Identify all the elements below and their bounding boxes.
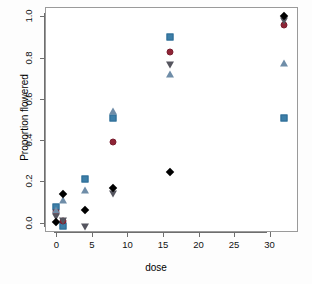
data-point-triangle-down — [59, 217, 67, 224]
data-point-triangle-down — [166, 61, 174, 68]
y-tick-mark — [40, 16, 45, 17]
x-tick-label: 5 — [89, 240, 94, 250]
data-point-circle — [167, 48, 174, 55]
y-tick-label: 1.0 — [24, 7, 34, 25]
y-tick-mark — [40, 99, 45, 100]
x-tick-mark — [163, 232, 164, 237]
y-tick-mark — [40, 140, 45, 141]
data-point-square — [167, 33, 174, 40]
x-tick-mark — [234, 232, 235, 237]
data-point-square — [280, 115, 287, 122]
y-tick-label: 0.0 — [24, 214, 34, 232]
data-point-triangle-down — [81, 223, 89, 230]
x-tick-label: 10 — [122, 240, 133, 250]
y-axis-title: Proportion flowered — [19, 48, 30, 188]
data-point-triangle-up — [109, 108, 117, 115]
x-tick-mark — [127, 232, 128, 237]
data-point-square — [81, 176, 88, 183]
plot-area-frame — [45, 7, 298, 232]
x-tick-label: 20 — [193, 240, 204, 250]
data-point-triangle-up — [81, 186, 89, 193]
x-axis-line — [54, 232, 267, 233]
x-tick-label: 25 — [229, 240, 240, 250]
y-tick-mark — [40, 58, 45, 59]
x-tick-mark — [56, 232, 57, 237]
data-point-triangle-up — [280, 59, 288, 66]
x-tick-label: 15 — [158, 240, 169, 250]
x-tick-label: 0 — [54, 240, 59, 250]
scatter-plot-figure: 051015202530 0.00.20.40.60.81.0 dose Pro… — [0, 0, 312, 284]
y-tick-mark — [40, 181, 45, 182]
data-point-circle — [110, 139, 117, 146]
y-axis-line — [44, 13, 45, 227]
data-point-square — [110, 115, 117, 122]
x-axis-title: dose — [0, 262, 312, 273]
y-tick-mark — [40, 223, 45, 224]
x-tick-label: 30 — [264, 240, 275, 250]
x-tick-mark — [270, 232, 271, 237]
data-point-triangle-up — [166, 71, 174, 78]
x-tick-mark — [92, 232, 93, 237]
x-tick-mark — [199, 232, 200, 237]
